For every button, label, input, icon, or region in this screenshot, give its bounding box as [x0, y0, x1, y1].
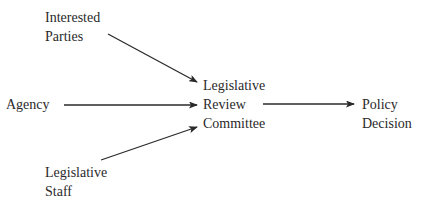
node-interested-parties: Interested Parties	[45, 8, 100, 46]
node-label-line: Review	[203, 95, 265, 114]
node-label-line: Policy	[362, 95, 412, 114]
node-label-line: Committee	[203, 114, 265, 133]
node-label-line: Agency	[6, 95, 50, 114]
node-label-line: Legislative	[203, 76, 265, 95]
arrow-interested-parties-to-committee	[108, 34, 197, 82]
node-label-line: Interested	[45, 8, 100, 27]
node-label-line: Legislative	[45, 163, 107, 182]
arrow-staff-to-committee	[101, 127, 197, 160]
node-agency: Agency	[6, 95, 50, 114]
node-label-line: Staff	[45, 182, 107, 200]
node-label-line: Decision	[362, 114, 412, 133]
node-policy-decision: Policy Decision	[362, 95, 412, 133]
node-legislative-review-committee: Legislative Review Committee	[203, 76, 265, 133]
node-legislative-staff: Legislative Staff	[45, 163, 107, 200]
node-label-line: Parties	[45, 27, 100, 46]
